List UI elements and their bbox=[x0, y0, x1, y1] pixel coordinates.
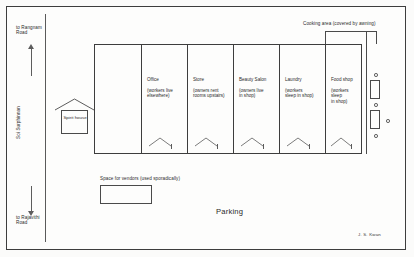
unit-laundry-door-tick bbox=[309, 144, 310, 149]
unit-office-door-tick bbox=[171, 144, 172, 149]
cooking-fixture-circle-4 bbox=[374, 134, 378, 138]
unit-laundry-name: Laundry bbox=[285, 77, 302, 82]
cooking-area-label: Cooking area (covered by awning) bbox=[303, 21, 376, 26]
unit-beauty-salon: Beauty Salon (owners live in shop) bbox=[234, 45, 279, 153]
unit-beauty-salon-stair-icon bbox=[240, 137, 264, 147]
unit-food-shop-stair-icon bbox=[330, 137, 352, 147]
road-arrow-down-shaft bbox=[31, 186, 33, 212]
unit-store-stair-icon bbox=[194, 137, 218, 147]
parking-label: Parking bbox=[216, 209, 243, 214]
unit-beauty-salon-label: Beauty Salon (owners live in shop) bbox=[239, 71, 276, 99]
soi-label: Soi Surphinnan bbox=[16, 88, 21, 158]
unit-food-shop-label: Food shop (workers sleep in shop) bbox=[331, 71, 359, 105]
unit-office-note: (workers live elsewhere) bbox=[147, 88, 173, 99]
unit-beauty-salon-note: (owners live in shop) bbox=[239, 88, 264, 99]
cooking-fixture-circle-3 bbox=[386, 119, 390, 123]
soi-centerline bbox=[45, 14, 46, 242]
unit-store-name: Store bbox=[193, 77, 204, 82]
unit-store-note: (owners rent rooms upstairs) bbox=[193, 88, 225, 99]
unit-food-shop: Food shop (workers sleep in shop) bbox=[326, 45, 362, 153]
unit-food-shop-note: (workers sleep in shop) bbox=[331, 88, 349, 104]
unit-laundry-note: (workers sleep in shop) bbox=[285, 88, 314, 99]
road-arrow-up-shaft bbox=[31, 49, 33, 76]
unit-laundry-stair-icon bbox=[286, 137, 310, 147]
unit-beauty-salon-door-tick bbox=[263, 144, 264, 149]
spirit-house-label: Spirit house bbox=[62, 115, 88, 120]
spirit-house bbox=[61, 110, 88, 134]
road-label-top: to Rangnam Road bbox=[16, 25, 42, 36]
unit-office-stair-icon bbox=[148, 137, 172, 147]
cooking-area-awning bbox=[325, 31, 377, 44]
cooking-fixture-circle-1 bbox=[374, 73, 378, 77]
unit-food-shop-name: Food shop bbox=[331, 77, 353, 82]
plan-drawing-sheet: to Rangnam Road to Rajavithi Road Soi Su… bbox=[0, 0, 414, 257]
shophouse-block: Office (workers live elsewhere) Store (o… bbox=[94, 44, 362, 154]
unit-laundry: Laundry (workers sleep in shop) bbox=[280, 45, 325, 153]
awning-edge-line bbox=[366, 31, 367, 154]
unit-office: Office (workers live elsewhere) bbox=[142, 45, 187, 153]
unit-beauty-salon-name: Beauty Salon bbox=[239, 77, 266, 82]
unit-store-door-tick bbox=[217, 144, 218, 149]
unit-food-shop-door-tick bbox=[351, 144, 352, 149]
unit-store: Store (owners rent rooms upstairs) bbox=[188, 45, 233, 153]
cooking-fixture-rect-1 bbox=[370, 80, 380, 99]
cooking-fixture-circle-2 bbox=[374, 103, 378, 107]
unit-office-name: Office bbox=[147, 77, 159, 82]
vendor-space-label: Space for vendors (used sporadically) bbox=[100, 176, 180, 181]
drawing-signature: J. S. Kwan bbox=[358, 232, 381, 237]
road-label-bottom: to Rajavithi Road bbox=[16, 215, 40, 226]
unit-laundry-label: Laundry (workers sleep in shop) bbox=[285, 71, 322, 99]
cooking-fixture-rect-2 bbox=[370, 110, 380, 129]
vendor-space bbox=[100, 185, 152, 204]
unit-office-label: Office (workers live elsewhere) bbox=[147, 71, 184, 99]
unit-store-label: Store (owners rent rooms upstairs) bbox=[193, 71, 230, 99]
